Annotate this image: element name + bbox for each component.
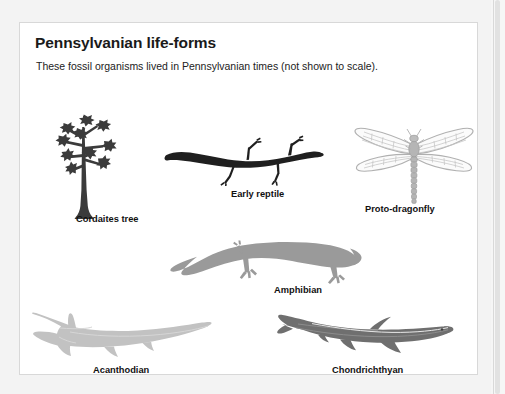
proto-dragonfly-icon xyxy=(350,116,478,204)
amphibian-icon xyxy=(170,235,362,297)
organism-label-early-reptile: Early reptile xyxy=(231,189,284,199)
scrollbar-thumb[interactable] xyxy=(495,0,500,394)
cordaites-tree-icon xyxy=(47,114,121,221)
figure-title: Pennsylvanian life-forms xyxy=(35,34,216,52)
acanthodian-icon xyxy=(30,308,212,370)
chondrichthyan-icon xyxy=(274,311,454,371)
figure-card: Pennsylvanian life-forms These fossil or… xyxy=(19,22,478,375)
figure-subtitle: These fossil organisms lived in Pennsylv… xyxy=(36,60,378,72)
page-background: Pennsylvanian life-forms These fossil or… xyxy=(0,0,505,394)
organism-label-acanthodian: Acanthodian xyxy=(93,365,149,375)
organism-label-chondrichthyan: Chondrichthyan xyxy=(332,365,403,375)
organism-label-amphibian: Amphibian xyxy=(274,285,322,295)
illustration-area: Cordaites tree xyxy=(20,78,477,374)
vertical-scrollbar[interactable] xyxy=(491,0,505,394)
scrollbar-divider-line xyxy=(493,0,494,394)
organism-label-proto-dragonfly: Proto-dragonfly xyxy=(365,204,435,214)
early-reptile-icon xyxy=(164,133,324,186)
organism-label-cordaites-tree: Cordaites tree xyxy=(76,214,139,224)
